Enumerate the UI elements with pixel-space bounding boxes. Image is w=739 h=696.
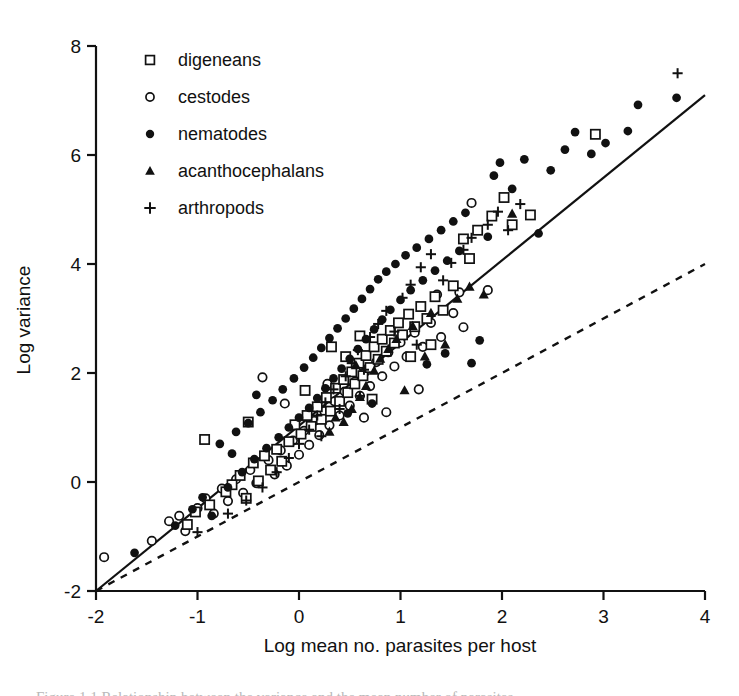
figure-caption-partial: Figure 1.1 Relationship between the vari… <box>36 686 704 696</box>
data-point-digeneans <box>284 437 293 446</box>
data-point-nematodes <box>370 325 379 334</box>
data-point-nematodes <box>391 260 400 269</box>
legend-marker-cestodes <box>146 93 154 101</box>
data-point-nematodes <box>443 256 452 265</box>
data-point-digeneans <box>322 393 331 402</box>
data-point-digeneans <box>300 386 309 395</box>
data-point-nematodes <box>130 548 139 557</box>
data-point-digeneans <box>200 435 209 444</box>
data-point-nematodes <box>449 217 458 226</box>
data-point-cestodes <box>100 553 108 561</box>
data-point-nematodes <box>441 349 450 358</box>
data-point-nematodes <box>496 158 505 167</box>
data-point-nematodes <box>490 171 499 180</box>
x-tick-label: 4 <box>700 606 711 627</box>
data-point-cestodes <box>378 372 386 380</box>
x-axis-label: Log mean no. parasites per host <box>264 635 537 656</box>
scatter-plot: -2-101234 -202468 digeneanscestodesnemat… <box>0 0 739 696</box>
data-point-nematodes <box>412 243 421 252</box>
x-tick-label: 3 <box>598 606 609 627</box>
data-point-nematodes <box>198 493 207 502</box>
x-tick-label: -1 <box>189 606 206 627</box>
data-point-digeneans <box>343 388 352 397</box>
y-tick-label: 2 <box>70 363 81 384</box>
data-point-nematodes <box>546 166 555 175</box>
data-point-nematodes <box>232 427 241 436</box>
data-point-digeneans <box>426 340 435 349</box>
data-point-cestodes <box>258 373 266 381</box>
data-point-nematodes <box>520 155 529 164</box>
data-point-nematodes <box>623 127 632 136</box>
legend-marker-digeneans <box>146 56 155 65</box>
data-point-nematodes <box>244 419 253 428</box>
data-point-nematodes <box>374 275 383 284</box>
data-point-nematodes <box>278 385 287 394</box>
x-tick-label: 0 <box>294 606 305 627</box>
y-tick-label: -2 <box>64 581 81 602</box>
y-tick-label: 6 <box>70 145 81 166</box>
data-point-cestodes <box>415 385 423 393</box>
data-point-nematodes <box>321 384 330 393</box>
x-tick-label: 1 <box>395 606 406 627</box>
data-point-nematodes <box>467 359 476 368</box>
data-point-nematodes <box>349 304 358 313</box>
x-tick-label: 2 <box>497 606 508 627</box>
data-point-nematodes <box>406 286 415 295</box>
data-point-cestodes <box>467 199 475 207</box>
data-point-nematodes <box>461 208 470 217</box>
data-point-nematodes <box>382 267 391 276</box>
data-point-nematodes <box>601 139 610 148</box>
data-point-nematodes <box>634 100 643 109</box>
data-point-nematodes <box>672 93 681 102</box>
data-point-nematodes <box>256 408 265 417</box>
data-point-nematodes <box>362 335 371 344</box>
data-point-nematodes <box>343 409 352 418</box>
data-point-nematodes <box>534 229 543 238</box>
data-point-digeneans <box>473 226 482 235</box>
data-point-digeneans <box>326 407 335 416</box>
data-point-cestodes <box>382 408 390 416</box>
legend-label-nematodes: nematodes <box>178 124 267 144</box>
data-point-nematodes <box>483 232 492 241</box>
data-point-nematodes <box>437 226 446 235</box>
data-point-nematodes <box>188 505 197 514</box>
data-point-nematodes <box>284 423 293 432</box>
data-point-digeneans <box>449 281 458 290</box>
data-point-nematodes <box>250 455 259 464</box>
data-point-cestodes <box>281 399 289 407</box>
data-point-nematodes <box>300 363 309 372</box>
data-point-nematodes <box>341 314 350 323</box>
data-point-nematodes <box>561 145 570 154</box>
data-point-digeneans <box>526 210 535 219</box>
y-tick-label: 0 <box>70 472 81 493</box>
data-point-digeneans <box>406 352 415 361</box>
data-point-nematodes <box>252 390 261 399</box>
data-point-digeneans <box>416 302 425 311</box>
data-point-cestodes <box>459 323 467 331</box>
data-point-nematodes <box>290 374 299 383</box>
data-point-nematodes <box>238 468 247 477</box>
data-point-cestodes <box>390 362 398 370</box>
data-point-nematodes <box>571 128 580 137</box>
x-tick-label: -2 <box>88 606 105 627</box>
data-point-digeneans <box>394 318 403 327</box>
data-point-nematodes <box>587 150 596 159</box>
data-point-digeneans <box>331 384 340 393</box>
data-point-nematodes <box>345 354 354 363</box>
data-point-cestodes <box>175 512 183 520</box>
data-point-nematodes <box>475 336 484 345</box>
data-point-nematodes <box>295 413 304 422</box>
data-point-digeneans <box>266 465 275 474</box>
data-point-cestodes <box>360 413 368 421</box>
data-point-nematodes <box>366 285 375 294</box>
data-point-nematodes <box>309 353 318 362</box>
data-point-nematodes <box>401 251 410 260</box>
data-point-cestodes <box>224 497 232 505</box>
data-point-digeneans <box>591 130 600 139</box>
y-axis-label: Log variance <box>13 266 34 375</box>
legend-label-digeneans: digeneans <box>178 50 261 70</box>
legend-label-acanthocephalans: acanthocephalans <box>178 161 324 181</box>
data-point-nematodes <box>337 364 346 373</box>
data-point-digeneans <box>459 234 468 243</box>
data-point-nematodes <box>455 247 464 256</box>
